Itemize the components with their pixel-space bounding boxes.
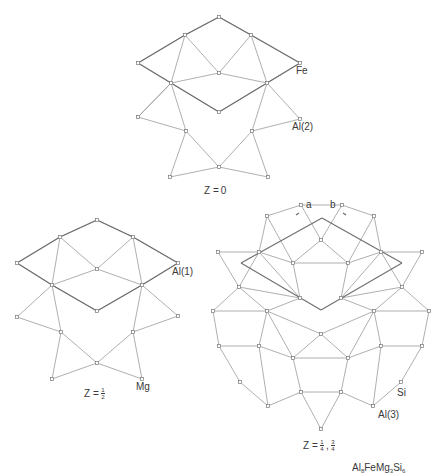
bond-edge bbox=[321, 205, 342, 240]
unit-cell-edge bbox=[321, 263, 402, 310]
atom-node bbox=[50, 283, 53, 286]
atom-node bbox=[265, 309, 268, 312]
bond-edge bbox=[342, 205, 374, 216]
bond-edge bbox=[293, 358, 301, 392]
atom-node bbox=[217, 165, 220, 168]
bond-edge bbox=[268, 392, 301, 406]
atom-label: Al(3) bbox=[378, 410, 399, 420]
atom-node bbox=[95, 361, 98, 364]
bond-edge bbox=[240, 382, 268, 406]
unit-cell-edge bbox=[17, 263, 52, 285]
bond-edge bbox=[348, 346, 381, 358]
bond-edge bbox=[170, 131, 186, 177]
bond-edge bbox=[97, 237, 133, 269]
bond-edge bbox=[219, 346, 240, 382]
bond-edge bbox=[348, 311, 374, 358]
bond-edge bbox=[52, 363, 97, 379]
bond-edge bbox=[293, 240, 321, 263]
compound-formula: Al8FeMg3Si6 bbox=[352, 462, 405, 474]
bond-edge bbox=[239, 252, 259, 287]
bond-edge bbox=[170, 167, 219, 177]
atom-node bbox=[131, 330, 134, 333]
bond-edge bbox=[142, 285, 178, 316]
unit-cell-edge bbox=[241, 218, 322, 263]
bond-edge bbox=[293, 334, 321, 358]
bond-edge bbox=[374, 311, 381, 346]
bond-edge bbox=[301, 392, 321, 429]
axis-arrow-icon bbox=[296, 213, 299, 215]
atom-node bbox=[217, 344, 220, 347]
bond-edge bbox=[341, 263, 348, 298]
bond-edge bbox=[61, 332, 97, 363]
bond-edge bbox=[171, 73, 219, 83]
atom-node bbox=[184, 129, 187, 132]
bond-edge bbox=[52, 332, 61, 379]
bond-edge bbox=[239, 287, 267, 311]
bond-edge bbox=[267, 83, 300, 119]
bond-edge bbox=[259, 346, 268, 406]
z-label-zquarter: Z = 1 4 , 3 4 bbox=[303, 439, 335, 452]
comma: , bbox=[326, 441, 329, 451]
axis-arrow-icon bbox=[343, 213, 346, 215]
bond-edge bbox=[252, 131, 268, 177]
atom-node bbox=[319, 427, 322, 430]
atom-node bbox=[176, 314, 179, 317]
atom-node bbox=[249, 33, 252, 36]
atom-node bbox=[58, 235, 61, 238]
bond-edge bbox=[293, 263, 300, 298]
atom-node bbox=[169, 81, 172, 84]
atom-node bbox=[131, 235, 134, 238]
unit-cell-edge bbox=[322, 218, 402, 263]
atom-label: a bbox=[306, 200, 312, 210]
unit-cell-edge bbox=[138, 63, 171, 83]
bond-edge bbox=[259, 216, 267, 252]
structure-diagram bbox=[0, 0, 442, 476]
atom-label: Mg bbox=[136, 382, 150, 392]
bond-edge bbox=[52, 269, 97, 285]
bond-edge bbox=[341, 298, 374, 311]
atom-node bbox=[427, 309, 430, 312]
atom-node bbox=[168, 175, 171, 178]
bond-edge bbox=[401, 346, 422, 382]
bond-edge bbox=[374, 287, 402, 311]
atom-node bbox=[183, 33, 186, 36]
z-label-z0: Z = 0 bbox=[204, 186, 226, 196]
bond-edge bbox=[321, 392, 341, 429]
z-label-zhalf: Z = 1 2 bbox=[84, 387, 105, 400]
atom-node bbox=[399, 380, 402, 383]
unit-cell-edge bbox=[17, 237, 60, 263]
atom-node bbox=[95, 218, 98, 221]
atom-node bbox=[379, 250, 382, 253]
atom-node bbox=[140, 283, 143, 286]
atom-node bbox=[379, 344, 382, 347]
fraction: 1 2 bbox=[101, 387, 105, 400]
bond-edge bbox=[186, 131, 219, 167]
bond-edge bbox=[138, 117, 186, 131]
bond-edge bbox=[17, 317, 61, 332]
fraction: 3 4 bbox=[331, 439, 335, 452]
bond-edge bbox=[97, 332, 133, 363]
atom-node bbox=[15, 315, 18, 318]
atom-node bbox=[95, 267, 98, 270]
atom-node bbox=[371, 404, 374, 407]
atom-node bbox=[291, 261, 294, 264]
unit-cell-edge bbox=[52, 285, 97, 311]
bond-edge bbox=[138, 83, 171, 117]
unit-cell-edge bbox=[60, 220, 97, 237]
bond-edge bbox=[267, 311, 293, 358]
bond-edge bbox=[219, 35, 251, 73]
atom-node bbox=[15, 261, 18, 264]
atom-node bbox=[217, 110, 220, 113]
atom-node bbox=[299, 390, 302, 393]
atom-node bbox=[216, 250, 219, 253]
bond-edge bbox=[97, 269, 142, 285]
atom-node bbox=[238, 380, 241, 383]
bond-edge bbox=[321, 240, 348, 263]
atom-label: b bbox=[330, 200, 336, 210]
bond-edge bbox=[402, 252, 422, 287]
atom-node bbox=[291, 356, 294, 359]
unit-cell-edge bbox=[185, 17, 219, 35]
bond-edge bbox=[402, 287, 429, 311]
unit-cell-edge bbox=[97, 285, 142, 311]
bond-edge bbox=[97, 363, 142, 379]
